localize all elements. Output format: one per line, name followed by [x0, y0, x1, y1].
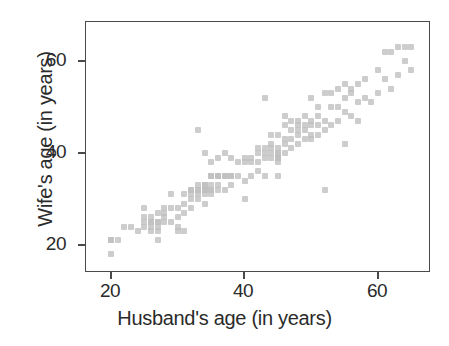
scatter-point — [308, 132, 314, 138]
scatter-point — [348, 86, 354, 92]
scatter-point — [342, 109, 348, 115]
scatter-point — [255, 145, 261, 151]
scatter-point — [168, 205, 174, 211]
scatter-point — [308, 95, 314, 101]
scatter-point — [308, 118, 314, 124]
scatter-point — [202, 182, 208, 188]
scatter-point — [295, 118, 301, 124]
scatter-point — [155, 219, 161, 225]
scatter-point — [355, 118, 361, 124]
scatter-point — [355, 99, 361, 105]
scatter-point — [121, 224, 127, 230]
scatter-point — [168, 191, 174, 197]
scatter-point — [288, 136, 294, 142]
scatter-point — [335, 104, 341, 110]
scatter-point — [222, 187, 228, 193]
scatter-point — [275, 132, 281, 138]
scatter-plot-figure: 60 40 20 20 40 60 Husband's age (in year… — [0, 0, 449, 346]
scatter-point — [202, 150, 208, 156]
scatter-point — [188, 187, 194, 193]
scatter-point — [395, 72, 401, 78]
scatter-point — [402, 58, 408, 64]
scatter-point — [248, 155, 254, 161]
scatter-point — [128, 224, 134, 230]
scatter-point — [175, 205, 181, 211]
x-tick-label-20: 20 — [80, 281, 140, 300]
scatter-point — [328, 104, 334, 110]
scatter-point — [235, 173, 241, 179]
scatter-point — [288, 127, 294, 133]
scatter-point — [408, 44, 414, 50]
scatter-point — [155, 210, 161, 216]
scatter-point — [262, 145, 268, 151]
scatter-point — [335, 86, 341, 92]
scatter-point — [315, 122, 321, 128]
scatter-point — [228, 173, 234, 179]
scatter-point — [115, 237, 121, 243]
scatter-point — [141, 205, 147, 211]
scatter-point — [175, 214, 181, 220]
scatter-point — [181, 228, 187, 234]
scatter-point — [228, 155, 234, 161]
scatter-point — [242, 178, 248, 184]
y-tick-mark-60 — [78, 60, 85, 62]
scatter-point — [141, 214, 147, 220]
scatter-point — [375, 67, 381, 73]
scatter-point — [282, 136, 288, 142]
scatter-point — [181, 210, 187, 216]
scatter-point — [235, 159, 241, 165]
scatter-point — [195, 127, 201, 133]
x-tick-mark-20 — [110, 272, 112, 279]
scatter-point — [382, 76, 388, 82]
x-tick-label-60: 60 — [347, 281, 407, 300]
scatter-point — [282, 122, 288, 128]
y-tick-mark-20 — [78, 244, 85, 246]
scatter-point — [288, 118, 294, 124]
scatter-point — [175, 224, 181, 230]
scatter-point — [228, 182, 234, 188]
scatter-point — [168, 219, 174, 225]
x-axis-label: Husband's age (in years) — [0, 307, 449, 330]
scatter-point — [181, 201, 187, 207]
scatter-point — [282, 150, 288, 156]
scatter-point — [108, 237, 114, 243]
scatter-point — [222, 150, 228, 156]
y-tick-mark-40 — [78, 152, 85, 154]
scatter-point — [315, 104, 321, 110]
scatter-point — [302, 122, 308, 128]
scatter-point — [195, 182, 201, 188]
scatter-point — [322, 90, 328, 96]
scatter-point — [208, 159, 214, 165]
scatter-point — [148, 214, 154, 220]
scatter-point — [355, 81, 361, 87]
scatter-point — [208, 173, 214, 179]
scatter-point — [268, 141, 274, 147]
scatter-point — [275, 173, 281, 179]
scatter-point — [315, 132, 321, 138]
y-axis-label: Wife's age (in years) — [32, 14, 58, 264]
scatter-point — [315, 113, 321, 119]
scatter-point — [242, 196, 248, 202]
scatter-point — [288, 145, 294, 151]
scatter-point — [395, 44, 401, 50]
scatter-point — [342, 81, 348, 87]
scatter-point — [408, 67, 414, 73]
scatter-point — [161, 205, 167, 211]
scatter-point — [342, 95, 348, 101]
scatter-point — [215, 173, 221, 179]
scatter-point — [388, 86, 394, 92]
scatter-point — [302, 113, 308, 119]
scatter-point — [302, 136, 308, 142]
scatter-point — [208, 182, 214, 188]
y-axis-label-container: Wife's age (in years) — [32, 14, 58, 264]
data-points-layer — [86, 22, 429, 271]
plot-area-frame — [85, 21, 430, 272]
scatter-point — [348, 113, 354, 119]
scatter-point — [335, 118, 341, 124]
scatter-point — [188, 205, 194, 211]
scatter-point — [255, 168, 261, 174]
scatter-point — [362, 95, 368, 101]
scatter-point — [295, 141, 301, 147]
scatter-point — [322, 127, 328, 133]
x-tick-label-40: 40 — [213, 281, 273, 300]
